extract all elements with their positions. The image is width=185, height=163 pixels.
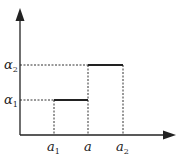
axes bbox=[20, 18, 166, 135]
x-label-a: a bbox=[84, 139, 92, 154]
x-label-a1: a1 bbox=[47, 139, 60, 156]
y-label-alpha2: α2 bbox=[4, 57, 18, 74]
step-function-diagram: α2 α1 a1 a a2 bbox=[0, 0, 185, 163]
x-label-a2: a2 bbox=[116, 139, 129, 156]
y-axis-arrow-icon bbox=[16, 8, 25, 21]
x-axis-arrow-icon bbox=[163, 131, 176, 140]
y-label-alpha1: α1 bbox=[4, 92, 18, 109]
